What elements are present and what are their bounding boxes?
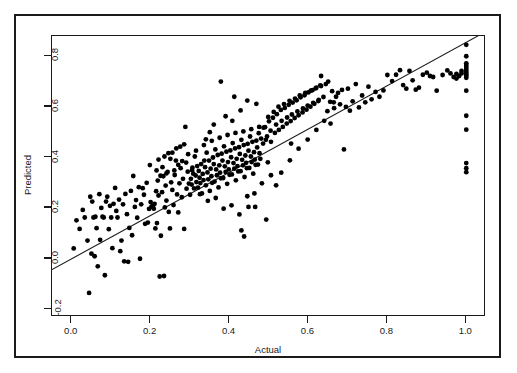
scatter-point: [293, 96, 298, 101]
plot-area: [51, 35, 485, 316]
scatter-point: [228, 148, 233, 153]
scatter-point: [152, 201, 157, 206]
scatter-point: [217, 163, 222, 168]
scatter-point: [74, 218, 79, 223]
scatter-point: [256, 131, 261, 136]
scatter-point: [171, 203, 176, 208]
scatter-point: [230, 141, 235, 146]
scatter-point: [176, 162, 181, 167]
scatter-point: [305, 137, 310, 142]
scatter-point: [175, 192, 180, 197]
scatter-point: [77, 227, 82, 232]
scatter-point: [251, 171, 256, 176]
scatter-point: [132, 204, 137, 209]
scatter-point: [464, 161, 469, 166]
scatter-point: [209, 138, 214, 143]
scatter-point: [211, 155, 216, 160]
scatter-point: [216, 185, 221, 190]
scatter-point: [153, 226, 158, 231]
scatter-point: [98, 237, 103, 242]
scatter-point: [125, 212, 130, 217]
scatter-point: [285, 115, 290, 120]
scatter-point: [145, 220, 150, 225]
scatter-point: [207, 158, 212, 163]
scatter-point: [182, 142, 187, 147]
scatter-point: [238, 169, 243, 174]
scatter-point: [185, 169, 190, 174]
scatter-point: [129, 189, 134, 194]
scatter-point: [313, 86, 318, 91]
scatter-point: [212, 179, 217, 184]
scatter-point: [303, 91, 308, 96]
scatter-point: [346, 86, 351, 91]
scatter-point: [284, 121, 289, 126]
scatter-point: [280, 124, 285, 129]
scatter-point: [169, 180, 174, 185]
scatter-point: [176, 210, 181, 215]
scatter-point: [363, 100, 368, 105]
scatter-point: [273, 131, 278, 136]
scatter-point: [183, 124, 188, 129]
scatter-point: [305, 103, 310, 108]
scatter-point: [202, 143, 207, 148]
scatter-point: [300, 110, 305, 115]
scatter-point: [238, 108, 243, 113]
scatter-point: [99, 205, 104, 210]
scatter-point: [353, 82, 358, 87]
scatter-point: [166, 210, 171, 215]
scatter-point: [261, 125, 266, 130]
scatter-point: [244, 160, 249, 165]
scatter-point: [205, 170, 210, 175]
scatter-point: [203, 137, 208, 142]
scatter-point: [252, 157, 257, 162]
scatter-point: [242, 175, 247, 180]
scatter-point: [308, 88, 313, 93]
scatter-point: [287, 98, 292, 103]
scatter-point: [226, 167, 231, 172]
scatter-point: [123, 192, 128, 197]
scatter-point: [288, 158, 293, 163]
scatter-point: [296, 146, 301, 151]
scatter-point: [95, 264, 100, 269]
scatter-point: [464, 42, 469, 47]
scatter-point: [235, 164, 240, 169]
scatter-point: [220, 158, 225, 163]
scatter-point: [440, 73, 445, 78]
scatter-point: [288, 119, 293, 124]
scatter-point: [127, 225, 132, 230]
scatter-point: [336, 91, 341, 96]
scatter-point: [398, 68, 403, 73]
scatter-point: [184, 186, 189, 191]
scatter-point: [316, 97, 321, 102]
scatter-point: [357, 105, 362, 110]
scatter-point: [207, 189, 212, 194]
scatter-point: [331, 100, 336, 105]
scatter-point: [203, 183, 208, 188]
scatter-point: [464, 88, 469, 93]
scatter-point: [256, 162, 261, 167]
scatter-point: [301, 106, 306, 111]
scatter-point: [322, 118, 327, 123]
scatter-point: [330, 89, 335, 94]
scatter-point: [233, 178, 238, 183]
scatter-point: [200, 172, 205, 177]
scatter-point: [113, 185, 118, 190]
scatter-point: [156, 157, 161, 162]
scatter-point: [325, 109, 330, 114]
scatter-point: [464, 75, 469, 80]
scatter-point: [97, 192, 102, 197]
scatter-point: [173, 158, 178, 163]
scatter-point: [265, 160, 270, 165]
scatter-point: [360, 93, 365, 98]
scatter-point: [182, 227, 187, 232]
scatter-point: [225, 133, 230, 138]
scatter-point: [144, 180, 149, 185]
scatter-point: [252, 191, 257, 196]
scatter-point: [211, 122, 216, 127]
scatter-point: [147, 163, 152, 168]
scatter-point: [135, 215, 140, 220]
scatter-point: [237, 152, 242, 157]
scatter-point: [170, 188, 175, 193]
scatter-point: [151, 206, 156, 211]
scatter-point: [254, 101, 259, 106]
